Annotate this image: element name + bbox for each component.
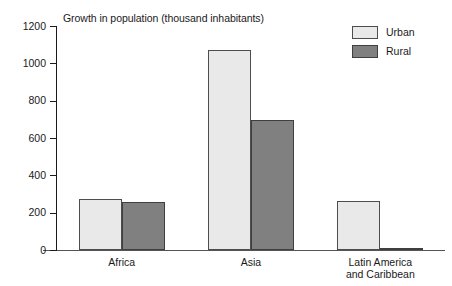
chart-legend: Urban Rural <box>352 24 415 62</box>
y-axis-tick <box>50 250 57 251</box>
y-axis-tick-label: 0 <box>4 245 46 256</box>
y-axis-label-slot: 400 <box>0 170 46 181</box>
bar-urban-0 <box>79 199 122 250</box>
bar-chart: Growth in population (thousand inhabitan… <box>0 0 452 286</box>
y-axis-label-slot: 800 <box>0 95 46 106</box>
chart-title: Growth in population (thousand inhabitan… <box>63 12 264 24</box>
x-axis-line <box>43 250 445 251</box>
legend-item-urban: Urban <box>352 24 415 40</box>
bar-urban-2 <box>337 201 380 250</box>
bar-urban-1 <box>208 50 251 250</box>
y-axis-tick-label: 200 <box>4 207 46 218</box>
urban-swatch-icon <box>352 26 378 39</box>
y-axis-tick <box>50 213 57 214</box>
y-axis-tick <box>50 26 57 27</box>
y-axis-tick-label: 800 <box>4 95 46 106</box>
legend-item-rural: Rural <box>352 43 415 59</box>
y-axis-tick <box>50 138 57 139</box>
y-axis-label-slot: 1000 <box>0 58 46 69</box>
y-axis-tick-label: 1000 <box>4 58 46 69</box>
y-axis-label-slot: 200 <box>0 207 46 218</box>
bar-rural-2 <box>380 248 423 250</box>
y-axis-label-slot: 600 <box>0 133 46 144</box>
rural-swatch-icon <box>352 45 378 58</box>
bar-rural-1 <box>251 120 294 250</box>
x-axis-category-label: Latin America and Caribbean <box>310 256 450 280</box>
legend-label-urban: Urban <box>386 27 415 38</box>
y-axis-tick <box>50 63 57 64</box>
y-axis-tick-label: 1200 <box>4 21 46 32</box>
legend-label-rural: Rural <box>386 46 411 57</box>
y-axis-tick-label: 600 <box>4 133 46 144</box>
y-axis-label-slot: 0 <box>0 245 46 256</box>
y-axis-tick <box>50 101 57 102</box>
x-axis-category-label: Africa <box>52 256 192 268</box>
y-axis-tick-label: 400 <box>4 170 46 181</box>
y-axis-label-slot: 1200 <box>0 21 46 32</box>
x-axis-category-label: Asia <box>181 256 321 268</box>
bar-rural-0 <box>122 202 165 250</box>
y-axis-tick <box>50 175 57 176</box>
